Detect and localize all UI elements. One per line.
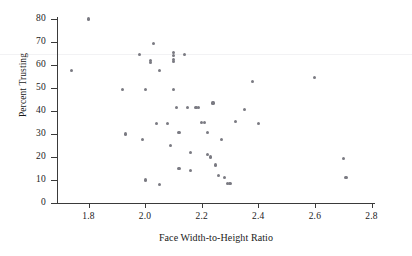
x-tick-label-2.6: 2.6 bbox=[300, 212, 330, 222]
data-point bbox=[344, 176, 347, 179]
y-tick-50 bbox=[51, 88, 57, 89]
data-point bbox=[177, 167, 180, 170]
data-point bbox=[158, 183, 161, 186]
y-tick-label-10: 10 bbox=[22, 175, 46, 185]
x-tick-1.8 bbox=[89, 203, 90, 208]
y-tick-70 bbox=[51, 42, 57, 43]
data-point bbox=[217, 174, 220, 177]
x-tick-2.4 bbox=[258, 203, 259, 208]
data-point bbox=[257, 122, 260, 125]
x-tick-label-2.8: 2.8 bbox=[357, 212, 387, 222]
data-point bbox=[158, 69, 161, 72]
data-point bbox=[189, 169, 192, 172]
x-tick-label-2.2: 2.2 bbox=[187, 212, 217, 222]
data-point bbox=[211, 101, 214, 104]
data-point bbox=[169, 144, 172, 147]
data-point bbox=[155, 122, 158, 125]
y-tick-10 bbox=[51, 180, 57, 181]
data-point bbox=[228, 182, 231, 185]
data-point bbox=[149, 61, 152, 64]
y-axis-line bbox=[57, 17, 58, 204]
x-tick-label-2.4: 2.4 bbox=[243, 212, 273, 222]
data-point bbox=[172, 88, 175, 91]
x-tick-2.6 bbox=[315, 203, 316, 208]
data-point bbox=[209, 155, 212, 158]
data-point bbox=[342, 157, 345, 160]
data-point bbox=[214, 163, 217, 166]
data-point bbox=[144, 88, 147, 91]
data-point bbox=[189, 151, 192, 154]
y-tick-label-20: 20 bbox=[22, 152, 46, 162]
data-point bbox=[313, 76, 316, 79]
y-tick-30 bbox=[51, 134, 57, 135]
data-point bbox=[152, 42, 155, 45]
data-point bbox=[183, 53, 186, 56]
data-point bbox=[186, 106, 189, 109]
data-point bbox=[243, 108, 246, 111]
y-axis-title: Percent Trusting bbox=[18, 30, 28, 140]
data-point bbox=[234, 120, 237, 123]
data-point bbox=[223, 176, 226, 179]
data-point bbox=[251, 80, 254, 83]
data-point bbox=[175, 106, 178, 109]
y-tick-40 bbox=[51, 111, 57, 112]
data-point bbox=[87, 17, 90, 20]
data-point bbox=[70, 69, 73, 72]
data-point bbox=[138, 53, 141, 56]
x-tick-label-2: 2.0 bbox=[130, 212, 160, 222]
x-axis-line bbox=[57, 203, 375, 204]
x-tick-2.2 bbox=[202, 203, 203, 208]
y-tick-20 bbox=[51, 157, 57, 158]
data-point bbox=[206, 131, 209, 134]
y-tick-label-80: 80 bbox=[22, 14, 46, 24]
data-point bbox=[172, 54, 175, 57]
y-tick-80 bbox=[51, 19, 57, 20]
data-point bbox=[172, 60, 175, 63]
x-tick-2.8 bbox=[372, 203, 373, 208]
y-tick-0 bbox=[51, 203, 57, 204]
data-point bbox=[124, 132, 127, 135]
scatter-plot: 01020304050607080 1.82.02.22.42.62.8 Per… bbox=[0, 0, 412, 256]
data-point bbox=[177, 131, 180, 134]
reference-line bbox=[0, 54, 412, 55]
data-point bbox=[166, 122, 169, 125]
x-axis-title: Face Width-to-Height Ratio bbox=[57, 232, 375, 243]
data-point bbox=[144, 178, 147, 181]
data-point bbox=[121, 88, 124, 91]
x-tick-2 bbox=[145, 203, 146, 208]
y-tick-label-0: 0 bbox=[22, 198, 46, 208]
data-point bbox=[220, 138, 223, 141]
y-tick-60 bbox=[51, 65, 57, 66]
data-point bbox=[197, 106, 200, 109]
data-point bbox=[203, 121, 206, 124]
x-tick-label-1.8: 1.8 bbox=[74, 212, 104, 222]
data-point bbox=[141, 138, 144, 141]
